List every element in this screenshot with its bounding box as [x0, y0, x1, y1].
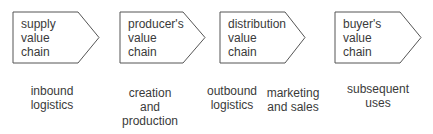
- activity-creation-production: creation and production: [115, 86, 185, 128]
- activity-outbound-logistics: outbound logistics: [204, 84, 260, 112]
- stage-label-supply: supply value chain: [21, 17, 56, 59]
- stage-label-distribution: distribution value chain: [228, 17, 286, 59]
- activity-marketing-sales: marketing and sales: [264, 86, 322, 114]
- stage-label-producer: producer's value chain: [128, 17, 184, 59]
- activity-subsequent-uses: subsequent uses: [345, 82, 411, 110]
- stage-label-buyer: buyer's value chain: [343, 17, 381, 59]
- activity-inbound-logistics: inbound logistics: [22, 84, 82, 112]
